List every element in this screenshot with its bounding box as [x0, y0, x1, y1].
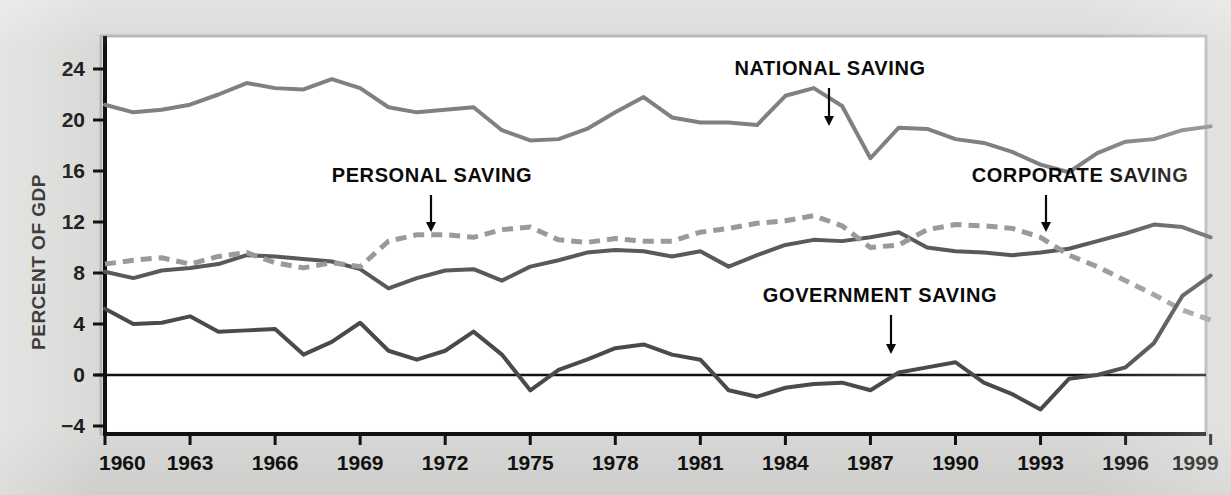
y-tick-label: 8	[73, 261, 85, 284]
x-tick-label: 1993	[1017, 451, 1064, 474]
x-tick-label: 1981	[677, 451, 724, 474]
y-axis-title: PERCENT OF GDP	[28, 174, 49, 350]
x-tick-label: 1999	[1172, 451, 1219, 474]
y-tick-label: 16	[62, 159, 85, 182]
annotation-label: GOVERNMENT SAVING	[763, 284, 997, 306]
y-tick-label: 24	[62, 57, 86, 80]
x-tick-label: 1975	[507, 451, 554, 474]
chart-figure: −404812162024 19601963196619691972197519…	[0, 0, 1231, 495]
x-tick-label: 1972	[422, 451, 469, 474]
x-tick-label: 1960	[99, 451, 146, 474]
y-tick-label: −4	[61, 414, 85, 437]
y-tick-label: 20	[62, 108, 85, 131]
chart-canvas: −404812162024 19601963196619691972197519…	[0, 0, 1231, 495]
y-axis-ticks: −404812162024	[61, 57, 105, 437]
annotation-label: CORPORATE SAVING	[972, 164, 1189, 186]
x-tick-label: 1966	[252, 451, 299, 474]
y-tick-label: 0	[73, 363, 85, 386]
y-tick-label: 4	[73, 312, 85, 335]
x-tick-label: 1969	[337, 451, 384, 474]
x-tick-label: 1987	[847, 451, 894, 474]
x-tick-label: 1963	[167, 451, 214, 474]
x-tick-label: 1996	[1102, 451, 1149, 474]
x-tick-label: 1984	[762, 451, 809, 474]
x-tick-label: 1978	[592, 451, 639, 474]
x-axis-ticks: 1960196319661969197219751978198119841987…	[99, 434, 1219, 474]
y-tick-label: 12	[62, 210, 85, 233]
x-tick-label: 1990	[932, 451, 979, 474]
annotation-label: PERSONAL SAVING	[332, 164, 533, 186]
annotation-label: NATIONAL SAVING	[734, 57, 925, 79]
